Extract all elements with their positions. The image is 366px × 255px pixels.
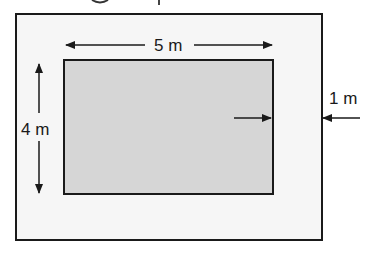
width-label: 5 m (150, 37, 186, 54)
height-label: 4 m (21, 119, 49, 140)
border-width-label: 1 m (329, 90, 357, 107)
